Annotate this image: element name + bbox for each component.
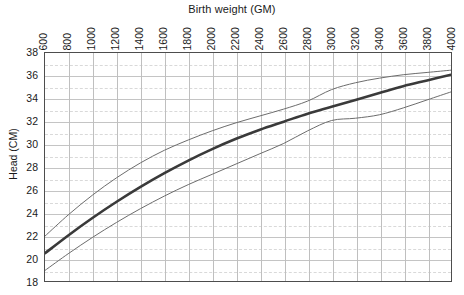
x-tick-label: 600 <box>38 32 49 50</box>
x-axis-tick-labels: 6008001000120014001600180020002200240026… <box>44 0 452 52</box>
y-tick-label: 26 <box>2 185 38 196</box>
y-tick-label: 20 <box>2 254 38 265</box>
y-tick-label: 28 <box>2 162 38 173</box>
x-tick-label: 2200 <box>230 27 241 50</box>
x-tick-label: 3200 <box>350 27 361 50</box>
plot-area <box>44 52 452 282</box>
x-tick-label: 1200 <box>110 27 121 50</box>
y-tick-label: 30 <box>2 139 38 150</box>
x-tick-label: 1000 <box>86 27 97 50</box>
x-tick-label: 3400 <box>374 27 385 50</box>
y-tick-label: 22 <box>2 231 38 242</box>
x-tick-label: 800 <box>62 32 73 50</box>
y-tick-label: 24 <box>2 208 38 219</box>
x-tick-label: 2800 <box>302 27 313 50</box>
y-tick-label: 34 <box>2 93 38 104</box>
x-tick-label: 2400 <box>254 27 265 50</box>
x-tick-label: 1800 <box>182 27 193 50</box>
y-tick-label: 18 <box>2 277 38 288</box>
curve-lower <box>45 92 451 271</box>
x-tick-label: 4000 <box>446 27 457 50</box>
curve-upper <box>45 70 451 236</box>
curve-mean <box>45 75 451 254</box>
x-tick-label: 1400 <box>134 27 145 50</box>
x-tick-label: 3600 <box>398 27 409 50</box>
y-tick-label: 32 <box>2 116 38 127</box>
y-tick-label: 36 <box>2 70 38 81</box>
x-tick-label: 1600 <box>158 27 169 50</box>
x-tick-label: 3800 <box>422 27 433 50</box>
chart-container: Birth weight (GM) Head (CM) 600800100012… <box>0 0 464 295</box>
y-tick-label: 38 <box>2 47 38 58</box>
y-axis-tick-labels: 1820222426283032343638 <box>0 52 42 282</box>
curve-layer <box>45 53 451 282</box>
x-tick-label: 3000 <box>326 27 337 50</box>
x-tick-label: 2000 <box>206 27 217 50</box>
x-tick-label: 2600 <box>278 27 289 50</box>
